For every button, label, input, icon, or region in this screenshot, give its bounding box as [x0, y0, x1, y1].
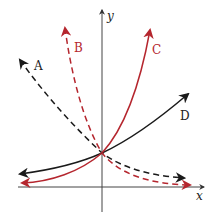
curve-b — [65, 28, 190, 185]
label-a: A — [33, 59, 43, 73]
curve-d — [20, 94, 188, 174]
label-d: D — [180, 109, 190, 123]
exponential-graph: A B C D x y — [0, 0, 214, 220]
y-axis-label: y — [106, 9, 114, 23]
label-b: B — [74, 41, 83, 55]
x-axis-label: x — [196, 189, 203, 203]
label-c: C — [152, 43, 161, 57]
